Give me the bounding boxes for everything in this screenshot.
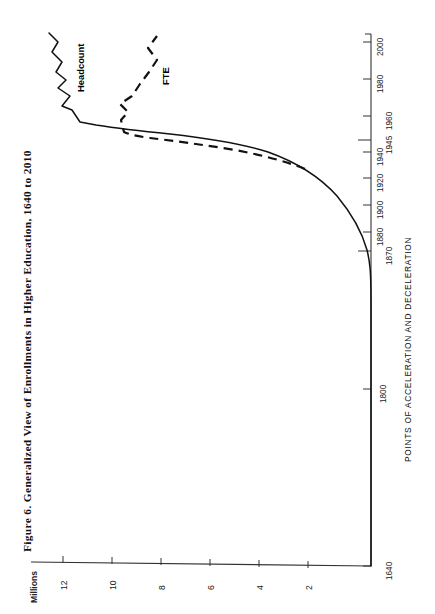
time-axis-caption: POINTS OF ACCELERATION AND DECELERATION xyxy=(404,237,412,462)
time-axis xyxy=(358,34,371,566)
time-axis-tick-label: 1945 xyxy=(386,136,394,154)
value-axis-tick-label: 4 xyxy=(256,585,265,590)
chart-svg xyxy=(0,0,435,614)
chart-plot-area xyxy=(0,0,435,614)
time-axis-tick-label: 1920 xyxy=(377,174,385,192)
value-axis-tick-label: 12 xyxy=(60,580,69,590)
value-axis-title: Millions xyxy=(30,571,39,603)
value-axis-line xyxy=(31,562,371,566)
series-label-headcount: Headcount xyxy=(76,44,85,92)
time-axis-tick-label: 1940 xyxy=(377,148,385,166)
value-axis-tick-label: 8 xyxy=(158,585,167,590)
time-axis-tick-label: 2000 xyxy=(377,38,385,56)
value-axis-tick-label: 6 xyxy=(207,585,216,590)
series-line-fte xyxy=(120,36,305,169)
time-axis-tick-label: 1960 xyxy=(386,112,394,130)
time-axis-tick-label: 1880 xyxy=(377,228,385,246)
time-axis-tick-label: 1900 xyxy=(377,201,385,219)
value-axis-tick-label: 2 xyxy=(305,585,314,590)
time-axis-tick-label: 1800 xyxy=(380,385,388,403)
time-axis-tick-label: 1980 xyxy=(377,75,385,93)
series-line-headcount xyxy=(49,33,371,566)
value-axis-tick-label: 10 xyxy=(109,580,118,590)
series-label-fte: FTE xyxy=(161,67,170,85)
time-axis-tick-label: 1870 xyxy=(386,247,394,265)
time-axis-tick-label: 1640 xyxy=(386,562,394,580)
value-axis xyxy=(31,556,371,568)
